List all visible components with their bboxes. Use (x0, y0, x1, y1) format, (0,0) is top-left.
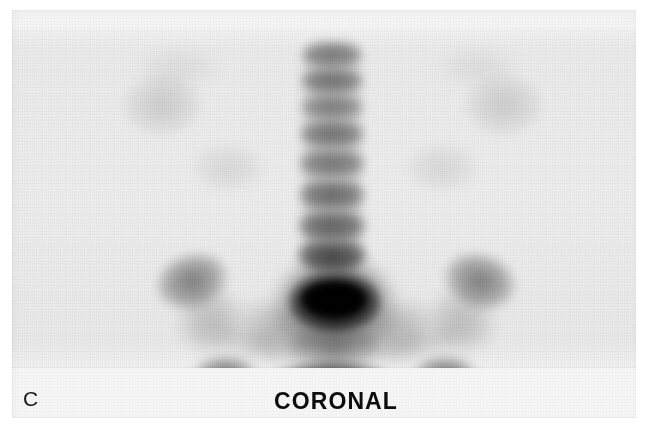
figure-panel: C CORONAL (0, 0, 648, 439)
scintigram-image (12, 28, 636, 368)
scan-film: C CORONAL (12, 10, 636, 418)
view-label: CORONAL (24, 390, 636, 413)
label-band: C CORONAL (12, 368, 636, 418)
scan-field-background (12, 28, 636, 368)
